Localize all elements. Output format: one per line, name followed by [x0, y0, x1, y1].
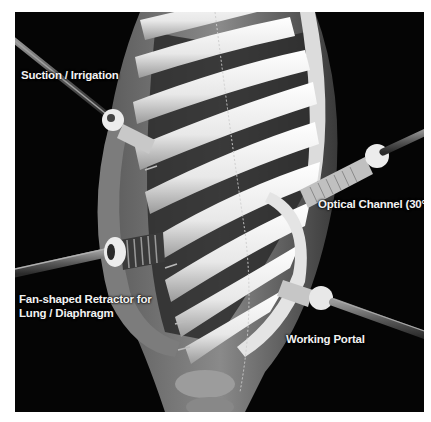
- label-suction-irrigation: Suction / Irrigation: [21, 68, 119, 82]
- label-optical-channel: Optical Channel (30°): [318, 197, 424, 211]
- label-fan-shaped-retractor: Fan-shaped Retractor for Lung / Diaphrag…: [19, 292, 152, 320]
- label-working-portal: Working Portal: [286, 332, 365, 346]
- photo-frame: Suction / Irrigation Optical Channel (30…: [15, 12, 424, 412]
